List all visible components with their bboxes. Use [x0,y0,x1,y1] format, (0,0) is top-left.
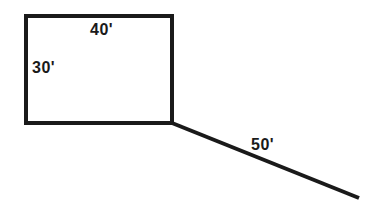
rectangle-height-label: 30' [32,60,55,76]
rectangle-width-label: 40' [90,22,113,38]
slanted-line [172,123,359,198]
diagram-canvas [0,0,380,214]
line-length-label: 50' [251,137,274,153]
